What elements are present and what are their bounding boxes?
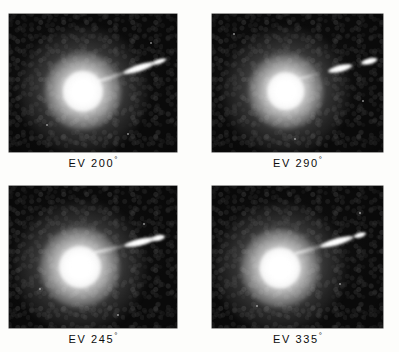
- plate-vignette: [212, 186, 383, 328]
- panel-4: [212, 186, 383, 328]
- panel-3: [9, 186, 177, 328]
- photographic-plate: [9, 186, 177, 328]
- panel-2: [212, 14, 383, 152]
- panel-caption-2: EV 290°: [212, 155, 383, 169]
- degree-symbol-icon: °: [319, 331, 322, 340]
- caption-label: EV 200: [69, 157, 115, 169]
- panel-caption-3: EV 245°: [9, 331, 177, 345]
- degree-symbol-icon: °: [114, 155, 117, 164]
- panel-caption-4: EV 335°: [212, 331, 383, 345]
- panel-1: [9, 14, 177, 152]
- degree-symbol-icon: °: [319, 155, 322, 164]
- plate-vignette: [9, 14, 177, 152]
- photographic-plate: [9, 14, 177, 152]
- figure-plate-grid: EV 200°EV 290°EV 245°EV 335°: [0, 0, 399, 352]
- caption-label: EV 245: [69, 333, 115, 345]
- plate-vignette: [212, 14, 383, 152]
- photographic-plate: [212, 186, 383, 328]
- caption-label: EV 290: [273, 157, 319, 169]
- caption-label: EV 335: [273, 333, 319, 345]
- degree-symbol-icon: °: [114, 331, 117, 340]
- photographic-plate: [212, 14, 383, 152]
- panel-caption-1: EV 200°: [9, 155, 177, 169]
- plate-vignette: [9, 186, 177, 328]
